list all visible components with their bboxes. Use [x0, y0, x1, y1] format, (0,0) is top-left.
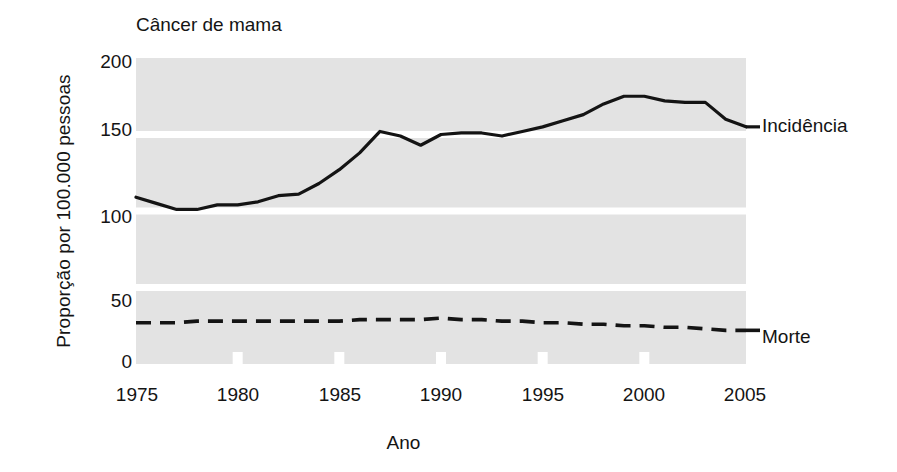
plot-area	[0, 0, 897, 472]
x-tick-notch	[233, 352, 243, 364]
series-label-incidencia: Incidência	[762, 115, 848, 137]
x-tick-notch	[538, 352, 548, 364]
plot-background-bands	[136, 58, 746, 364]
plot-band	[136, 58, 746, 131]
plot-band	[136, 215, 746, 285]
plot-band	[136, 138, 746, 208]
series-label-morte: Morte	[762, 326, 811, 348]
x-tick-notch	[639, 352, 649, 364]
x-tick-notch	[334, 352, 344, 364]
x-tick-notch	[436, 352, 446, 364]
x-axis-label-text: Ano	[387, 432, 421, 453]
chart-container: Proporção por 100.000 pessoas Câncer de …	[0, 0, 897, 472]
x-axis-label: Ano	[0, 432, 897, 454]
